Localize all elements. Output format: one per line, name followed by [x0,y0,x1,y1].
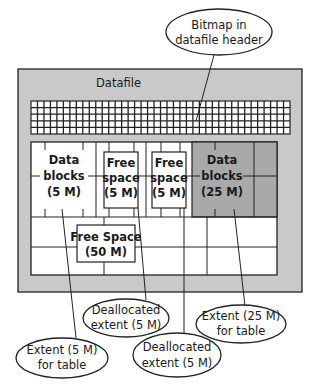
free-space-50m-label: Free Space [70,230,141,244]
svg-text:Extent (25 M): Extent (25 M) [202,309,280,323]
data-blocks-25m-label: blocks [201,169,243,183]
free-space-5m-b-label: space [150,171,188,185]
svg-text:extent (5 M): extent (5 M) [142,356,213,370]
datafile-diagram: Datafile [0,0,320,389]
free-space-50m-label: (50 M) [85,245,127,259]
svg-text:Deallocated: Deallocated [143,340,212,354]
free-space-5m-a-label: (5 M) [104,186,138,200]
data-blocks-25m-label: (25 M) [201,185,243,199]
svg-text:for table: for table [217,324,266,338]
data-blocks-5m-label: blocks [43,169,85,183]
callout-deallocated-extent-a: Deallocated extent (5 M) [83,299,169,337]
callout-extent-5m: Extent (5 M) for table [16,338,108,378]
svg-text:Extent (5 M): Extent (5 M) [27,343,98,357]
callout-deallocated-extent-b: Deallocated extent (5 M) [133,333,221,377]
datafile-label: Datafile [96,76,141,90]
data-blocks-25m-label: Data [207,153,238,167]
free-space-5m-a-label: space [102,171,140,185]
svg-text:Bitmap in: Bitmap in [191,18,246,32]
bitmap-grid [31,101,290,134]
free-space-5m-b-label: Free [155,156,184,170]
free-space-5m-b-label: (5 M) [152,186,186,200]
callout-extent-25m: Extent (25 M) for table [196,305,286,343]
svg-text:for table: for table [38,358,87,372]
callout-bitmap: Bitmap in datafile header [166,9,272,55]
svg-text:datafile header: datafile header [175,33,263,47]
data-blocks-5m-label: Data [49,153,80,167]
svg-text:Deallocated: Deallocated [92,303,161,317]
free-space-5m-a-label: Free [107,156,136,170]
data-blocks-5m-label: (5 M) [47,185,81,199]
svg-text:extent (5 M): extent (5 M) [91,318,162,332]
